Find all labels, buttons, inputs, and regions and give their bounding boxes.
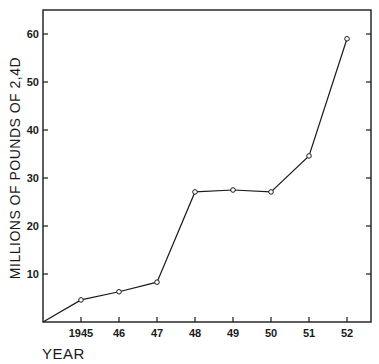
data-point-marker	[231, 188, 236, 193]
y-tick-label: 10	[27, 268, 39, 280]
data-point-marker	[155, 280, 160, 285]
data-line	[43, 39, 347, 322]
x-tick-label: 51	[303, 327, 315, 339]
data-series	[43, 37, 349, 323]
x-axis-title: YEAR	[42, 345, 85, 362]
data-point-marker	[193, 190, 198, 195]
y-tick-label: 60	[27, 28, 39, 40]
data-point-marker	[79, 298, 84, 303]
data-point-marker	[117, 289, 122, 294]
x-tick-label: 48	[189, 327, 201, 339]
line-chart: 102030405060 194546474849505152 MILLIONS…	[0, 0, 379, 364]
x-tick-label: 1945	[69, 327, 93, 339]
y-tick-label: 50	[27, 76, 39, 88]
plot-frame	[43, 10, 371, 322]
data-point-marker	[345, 37, 350, 42]
y-tick-label: 30	[27, 172, 39, 184]
y-axis-ticks: 102030405060	[27, 28, 371, 280]
x-tick-label: 50	[265, 327, 277, 339]
data-point-marker	[307, 154, 312, 159]
x-tick-label: 47	[151, 327, 163, 339]
x-tick-label: 49	[227, 327, 239, 339]
x-tick-label: 52	[341, 327, 353, 339]
y-tick-label: 40	[27, 124, 39, 136]
plot-border	[43, 10, 371, 322]
y-axis-title: MILLIONS OF POUNDS OF 2,4D	[7, 57, 23, 279]
x-tick-label: 46	[113, 327, 125, 339]
y-tick-label: 20	[27, 220, 39, 232]
data-point-marker	[269, 190, 274, 195]
x-axis-ticks: 194546474849505152	[69, 317, 353, 339]
